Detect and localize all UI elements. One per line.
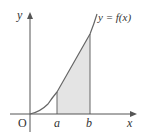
curve-label: y = f(x) [97,11,131,24]
bound-a-label: a [54,116,60,130]
diagram-svg: y y = f(x) O a b x [0,0,145,138]
shaded-area [57,34,90,114]
origin-label: O [18,116,27,130]
area-under-curve-diagram: y y = f(x) O a b x [0,0,145,138]
bound-b-label: b [86,116,92,130]
y-axis-label: y [16,8,23,22]
y-axis-arrow-icon [27,12,33,19]
x-axis-label: x [126,116,133,130]
